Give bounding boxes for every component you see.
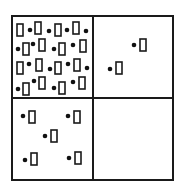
rect-particle [74, 59, 80, 71]
dot-particle [65, 28, 70, 33]
rect-particle [17, 62, 23, 74]
dot-particle [32, 79, 37, 84]
rect-particle [39, 39, 45, 51]
dot-particle [67, 156, 72, 161]
dot-particle [71, 43, 76, 48]
diagram-canvas [0, 0, 177, 184]
rect-particle [35, 22, 41, 34]
dot-particle [52, 86, 57, 91]
rect-particle [79, 77, 85, 89]
dot-particle [31, 42, 36, 47]
dot-particle [47, 29, 52, 34]
dot-particle [66, 62, 71, 67]
rect-particle [29, 111, 35, 123]
rect-particle [55, 24, 61, 36]
quadrant-grid-diagram [0, 0, 177, 184]
dot-particle [85, 66, 90, 71]
rect-particle [73, 22, 79, 34]
rect-particle [23, 43, 29, 55]
dot-particle [48, 67, 53, 72]
rect-particle [116, 62, 122, 74]
rect-particle [31, 153, 37, 165]
rect-particle [55, 62, 61, 74]
rect-particle [59, 82, 65, 94]
dot-particle [43, 134, 48, 139]
rect-particle [75, 152, 81, 164]
dot-particle [108, 67, 113, 72]
dot-particle [84, 29, 89, 34]
rect-particle [23, 83, 29, 95]
dot-particle [28, 28, 33, 33]
rect-particle [17, 24, 23, 36]
dot-particle [21, 114, 26, 119]
dot-particle [27, 62, 32, 67]
rect-particle [74, 111, 80, 123]
rect-particle [51, 130, 57, 142]
dot-particle [52, 47, 57, 52]
dot-particle [23, 158, 28, 163]
rect-particle [140, 39, 146, 51]
dot-particle [66, 114, 71, 119]
dot-particle [71, 80, 76, 85]
rect-particle [59, 43, 65, 55]
dot-particle [132, 43, 137, 48]
dot-particle [16, 87, 21, 92]
rect-particle [80, 40, 86, 52]
rect-particle [36, 59, 42, 71]
dot-particle [16, 47, 21, 52]
rect-particle [39, 77, 45, 89]
